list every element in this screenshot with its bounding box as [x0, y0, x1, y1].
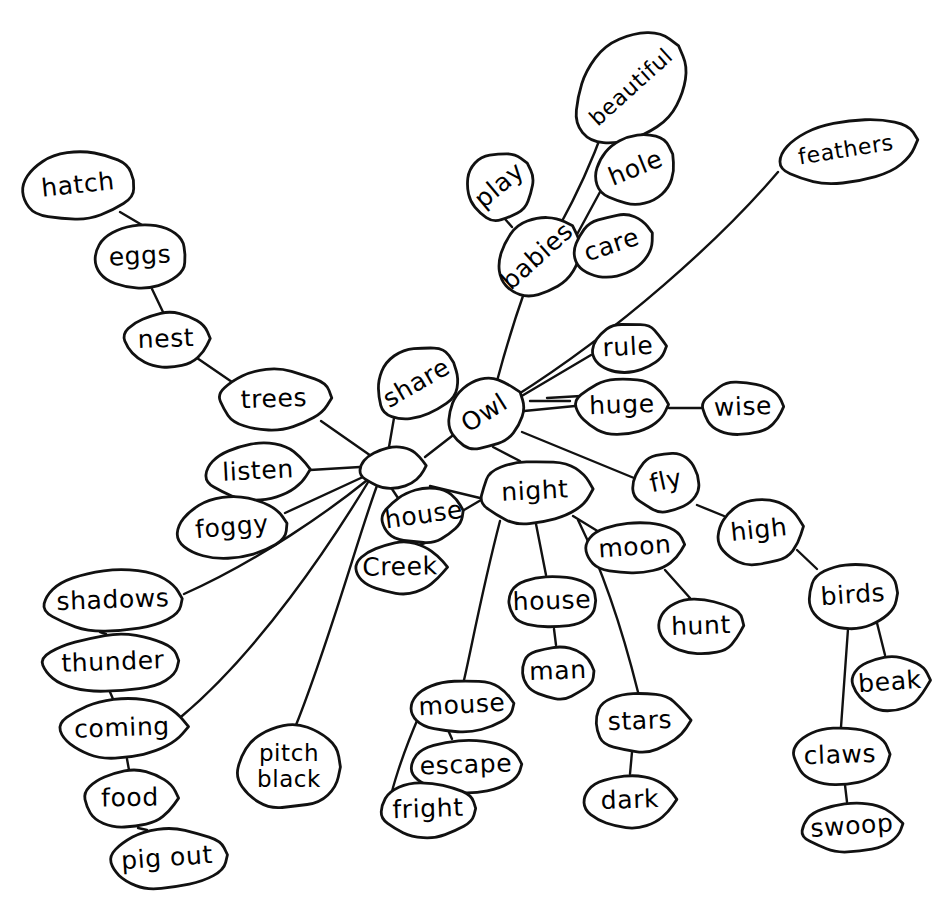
node-label-escape: escape: [419, 748, 512, 780]
node-hunt[interactable]: hunt: [658, 597, 745, 655]
edge-birds-to-claws: [841, 629, 848, 727]
edge-owl-to-night: [493, 447, 520, 461]
edge-owl-to-huge: [524, 406, 575, 411]
node-label-high: high: [729, 512, 789, 547]
edge-high-to-birds: [797, 550, 817, 569]
node-label-fright: fright: [392, 793, 464, 824]
edge-owl-to-rule: [520, 355, 591, 397]
edge-house1-to-night: [464, 500, 481, 510]
node-label-listen: listen: [221, 454, 294, 487]
node-label-moon: moon: [597, 529, 672, 563]
edge-pitchblack-to-hub: [296, 483, 378, 725]
node-rule[interactable]: rule: [591, 322, 668, 374]
node-mouse[interactable]: mouse: [410, 678, 516, 734]
node-label-shadows: shadows: [56, 583, 170, 616]
node-label-house2: house: [512, 585, 591, 617]
mind-map-canvas: hatcheggsnesttreeslistenfoggyshadowsthun…: [0, 0, 941, 917]
node-foggy[interactable]: foggy: [174, 492, 289, 563]
edge-night-to-mouse: [464, 521, 500, 680]
node-label-man: man: [529, 655, 587, 686]
edge-coming-to-food: [127, 759, 129, 770]
node-stars[interactable]: stars: [595, 692, 692, 754]
node-label-stars: stars: [607, 705, 672, 736]
node-thunder[interactable]: thunder: [41, 632, 179, 693]
node-label-hunt: hunt: [671, 610, 732, 641]
node-label-wise: wise: [713, 391, 772, 422]
node-creek[interactable]: Creek: [355, 541, 448, 595]
node-label-rule: rule: [602, 331, 654, 363]
central-hub-node[interactable]: [358, 445, 427, 491]
node-shadows[interactable]: shadows: [43, 568, 184, 634]
edge-night-to-house2: [536, 524, 546, 575]
node-label-night: night: [501, 474, 570, 506]
node-feathers[interactable]: feathers: [775, 111, 923, 193]
edge-babies-to-play: [505, 219, 512, 227]
edge-birds-to-beak: [877, 623, 885, 655]
edge-claws-to-swoop: [845, 785, 847, 802]
node-birds[interactable]: birds: [807, 561, 900, 631]
node-swoop[interactable]: swoop: [800, 800, 904, 855]
edge-moon-to-hunt: [665, 570, 690, 598]
node-pigout[interactable]: pig out: [109, 824, 230, 891]
edge-trees-to-hub: [321, 421, 374, 458]
node-high[interactable]: high: [714, 495, 806, 568]
node-label-mouse: mouse: [418, 688, 506, 722]
node-moon[interactable]: moon: [584, 519, 686, 576]
node-label-claws: claws: [803, 739, 876, 771]
node-label-nest: nest: [137, 323, 194, 354]
node-label-pitchblack-line1: pitch: [259, 740, 319, 766]
node-layer: hatcheggsnesttreeslistenfoggyshadowsthun…: [19, 10, 932, 892]
edge-nest-to-trees: [197, 358, 232, 382]
edge-owl-to-hub: [425, 436, 452, 457]
node-label-pitchblack-line2: black: [257, 766, 321, 792]
edge-house2-to-man: [554, 629, 556, 645]
edge-hatch-to-eggs: [120, 212, 142, 225]
node-care[interactable]: care: [566, 205, 662, 287]
node-coming[interactable]: coming: [59, 696, 190, 760]
edge-thunder-to-coming: [110, 692, 113, 699]
edge-fly-to-high: [697, 505, 724, 516]
node-claws[interactable]: claws: [793, 726, 891, 786]
edge-food-to-pigout: [138, 828, 147, 830]
node-label-food: food: [101, 782, 159, 812]
node-wise[interactable]: wise: [702, 380, 785, 435]
node-listen[interactable]: listen: [204, 440, 311, 502]
node-huge[interactable]: huge: [575, 377, 670, 435]
node-fly[interactable]: fly: [627, 448, 704, 518]
node-label-dark: dark: [600, 784, 659, 815]
node-dark[interactable]: dark: [583, 774, 678, 830]
node-label-birds: birds: [820, 578, 886, 611]
node-label-eggs: eggs: [108, 239, 172, 271]
node-pitchblack[interactable]: pitchblack: [237, 725, 340, 808]
node-label-coming: coming: [74, 711, 171, 743]
node-label-beak: beak: [857, 665, 922, 698]
node-night[interactable]: night: [479, 458, 594, 526]
node-label-thunder: thunder: [61, 645, 165, 678]
edge-stars-to-dark: [630, 752, 632, 774]
node-eggs[interactable]: eggs: [93, 223, 186, 291]
node-label-trees: trees: [240, 383, 307, 414]
node-man[interactable]: man: [522, 646, 595, 701]
node-food[interactable]: food: [84, 769, 179, 828]
edge-listen-to-hub: [310, 467, 360, 470]
node-label-huge: huge: [589, 389, 655, 420]
edge-share-to-hub: [389, 418, 394, 447]
hub-bubble-outline: [358, 445, 427, 491]
node-house1[interactable]: house: [378, 483, 467, 548]
edge-eggs-to-nest: [152, 289, 163, 312]
node-beak[interactable]: beak: [851, 654, 933, 713]
node-trees[interactable]: trees: [218, 367, 332, 432]
owl-huge-dash: [547, 396, 581, 398]
node-house2[interactable]: house: [508, 575, 596, 628]
node-label-swoop: swoop: [810, 808, 895, 843]
edge-owl-to-babies: [497, 293, 524, 381]
node-label-creek: Creek: [362, 551, 438, 581]
node-hatch[interactable]: hatch: [19, 146, 137, 225]
